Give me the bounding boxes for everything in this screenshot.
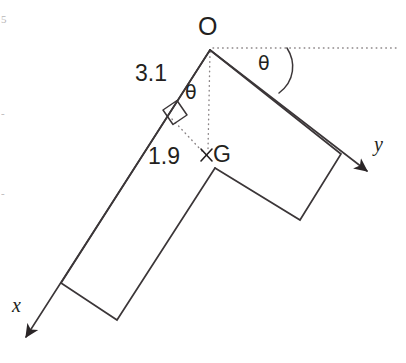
dimension-label-lower: 1.9 — [148, 145, 180, 168]
centroid-label: G — [213, 143, 231, 166]
theta-arc-top — [279, 48, 293, 93]
mechanics-diagram — [0, 0, 406, 363]
theta-label-left: θ — [185, 83, 197, 102]
x-axis-arrow — [26, 50, 210, 337]
vertical-dotted-line-O-to-G — [208, 52, 210, 150]
theta-label-top: θ — [258, 54, 270, 73]
dimension-label-upper: 3.1 — [135, 62, 167, 85]
origin-label: O — [198, 14, 217, 39]
y-axis-arrow — [210, 50, 367, 171]
y-axis-label: y — [374, 134, 383, 154]
centroid-cross-marker — [201, 149, 212, 161]
x-axis-label: x — [12, 295, 21, 315]
